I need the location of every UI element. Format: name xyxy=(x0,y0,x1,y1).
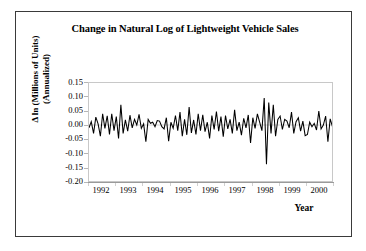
x-tick-label-1996: 1996 xyxy=(196,186,224,195)
chart-title-line-2: Sales xyxy=(276,23,298,34)
y-tick-label-6: -0.15 xyxy=(49,163,83,172)
x-axis-title: Year xyxy=(274,203,334,213)
x-tick-label-1995: 1995 xyxy=(169,186,197,195)
chart-title-line-1: Change in Natural Log of Lightweight Veh… xyxy=(72,23,274,34)
figure-container: Change in Natural Log of Lightweight Veh… xyxy=(15,11,352,237)
series-lightweight-vehicle-sales xyxy=(89,83,332,181)
x-tick-label-2000: 2000 xyxy=(305,186,333,195)
y-tick-label-1: 0.10 xyxy=(49,92,83,101)
y-tick-label-3: 0.00 xyxy=(49,120,83,129)
x-tick-mark-9 xyxy=(333,183,334,186)
y-axis-title-line-1: Δ ln (Millions of Units) xyxy=(30,35,40,122)
x-tick-label-1994: 1994 xyxy=(141,186,169,195)
x-tick-label-1992: 1992 xyxy=(87,186,115,195)
series-polyline xyxy=(89,98,332,164)
y-tick-label-4: -0.05 xyxy=(49,134,83,143)
plot-area xyxy=(88,82,333,182)
y-tick-label-7: -0.20 xyxy=(49,177,83,186)
y-tick-label-2: 0.05 xyxy=(49,106,83,115)
x-axis-line xyxy=(88,182,334,183)
x-tick-label-1993: 1993 xyxy=(114,186,142,195)
x-tick-label-1998: 1998 xyxy=(251,186,279,195)
y-tick-label-5: -0.10 xyxy=(49,149,83,158)
x-tick-label-1999: 1999 xyxy=(278,186,306,195)
y-tick-label-0: 0.15 xyxy=(49,78,83,87)
x-tick-label-1997: 1997 xyxy=(223,186,251,195)
chart-title: Change in Natural Log of Lightweight Veh… xyxy=(44,22,326,35)
